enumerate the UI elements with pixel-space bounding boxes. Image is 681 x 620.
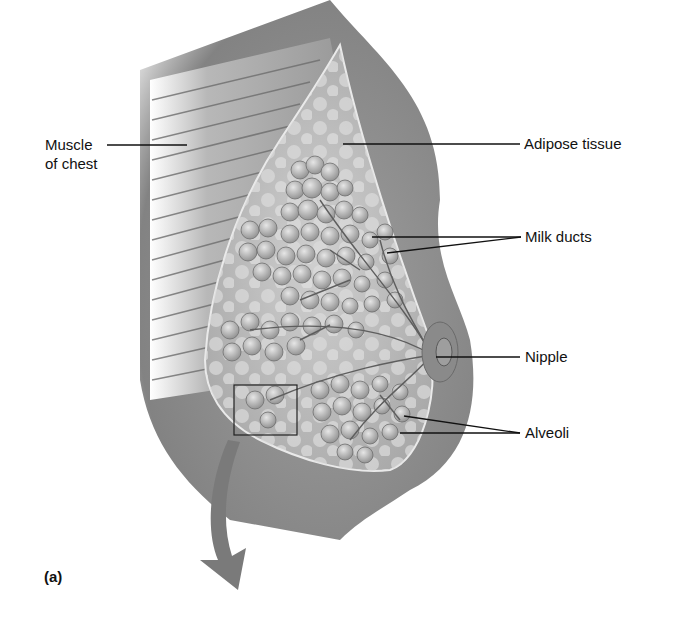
panel-label: (a) [44,568,62,586]
label-adipose-tissue: Adipose tissue [524,135,622,153]
label-nipple: Nipple [525,348,568,366]
label-muscle-line1: Muscle [45,136,93,154]
breast-anatomy-illustration [0,0,681,620]
label-alveoli: Alveoli [525,424,569,442]
label-muscle-line2: of chest [45,155,98,173]
nipple-areola [422,322,458,382]
label-milk-ducts: Milk ducts [525,228,592,246]
